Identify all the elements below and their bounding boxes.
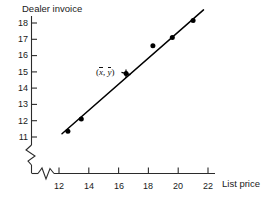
plot-canvas [0,0,273,203]
y-axis-break-zigzag [26,145,35,165]
data-point [150,43,155,48]
scatter-plot-figure: Dealer invoice List price 18 17 16 15 14… [0,0,273,203]
x-axis-group [32,168,216,180]
data-point [79,117,84,122]
x-axis-break-zigzag [38,168,54,179]
data-point [191,18,196,23]
data-point [65,129,70,134]
data-point [170,35,175,40]
regression-trend-line [62,10,204,134]
y-axis-group [26,16,37,173]
data-point-group [65,18,195,134]
mean-annotation-pointer [122,70,131,79]
